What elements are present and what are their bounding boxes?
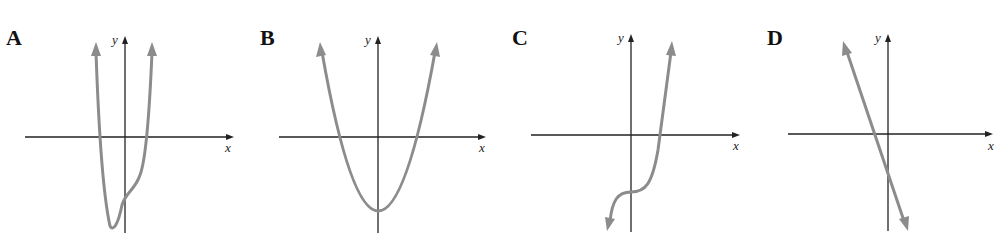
arrowhead-icon: [605, 217, 615, 231]
y-axis: [885, 34, 891, 231]
line-d: [847, 52, 904, 221]
arrowhead-icon: [666, 41, 676, 56]
x-axis-label: x: [733, 139, 739, 152]
arrowhead-icon: [430, 42, 440, 57]
y-axis: [375, 36, 381, 233]
arrowhead-icon: [91, 42, 101, 56]
y-axis: [628, 34, 634, 232]
graph-a-plot: [0, 0, 250, 252]
arrowhead-icon: [899, 216, 909, 231]
x-axis: [788, 131, 993, 137]
graph-c-plot: [500, 0, 750, 252]
arrowhead-icon: [842, 41, 852, 56]
x-axis-label: x: [988, 139, 994, 152]
x-axis: [25, 134, 234, 140]
x-axis-label: x: [479, 141, 485, 154]
graph-b-plot: [250, 0, 500, 252]
arrowhead-icon: [147, 42, 157, 56]
x-axis: [531, 132, 740, 138]
graph-panel-b: B y x: [250, 0, 500, 252]
x-axis: [279, 134, 486, 140]
curve-c: [610, 52, 671, 222]
y-axis-label: y: [618, 31, 624, 44]
y-axis-label: y: [112, 33, 118, 46]
x-axis-label: x: [225, 141, 231, 154]
y-axis-label: y: [365, 33, 371, 46]
graph-panel-a: A y x: [0, 0, 250, 252]
y-axis-label: y: [875, 31, 881, 44]
curve-a: [96, 52, 152, 228]
arrowhead-icon: [316, 42, 326, 57]
graph-panel-c: C y x: [500, 0, 750, 252]
graph-panel-d: D y x: [750, 0, 1000, 252]
